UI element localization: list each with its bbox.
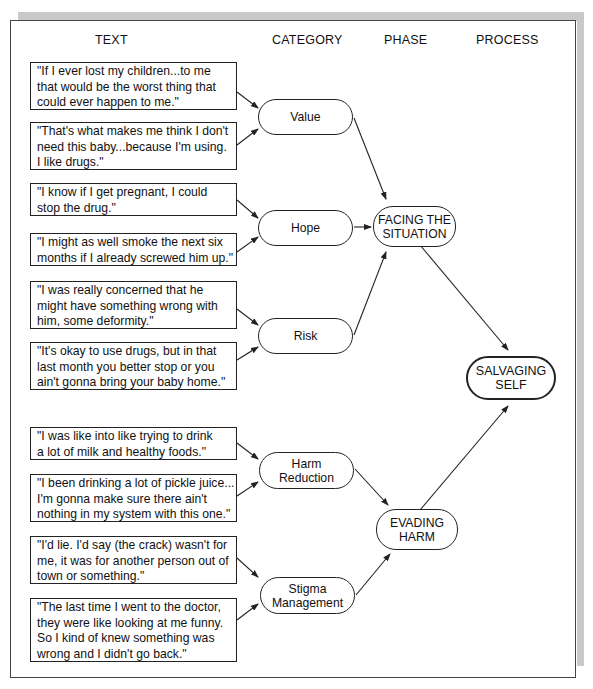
column-header-category: CATEGORY: [272, 33, 343, 47]
phase-node-evading-harm: EVADING HARM: [376, 509, 458, 550]
quote-box-5: "I was really concerned that he might ha…: [30, 281, 237, 329]
category-node-value: Value: [258, 99, 353, 135]
category-node-harm-reduction: Harm Reduction: [259, 452, 354, 489]
column-header-phase: PHASE: [384, 33, 427, 47]
category-node-stigma-management: Stigma Management: [260, 577, 355, 614]
quote-box-9: "I'd lie. I'd say (the crack) wasn't for…: [30, 536, 237, 584]
category-node-hope: Hope: [258, 210, 353, 246]
process-node-salvaging-self: SALVAGING SELF: [466, 356, 556, 400]
quote-box-8: "I been drinking a lot of pickle juice..…: [30, 474, 237, 522]
quote-box-4: "I might as well smoke the next six mont…: [30, 233, 237, 266]
phase-node-facing-the-situation: FACING THE SITUATION: [373, 206, 456, 247]
quote-box-7: "I was like into like trying to drink a …: [30, 427, 237, 460]
column-header-process: PROCESS: [476, 33, 539, 47]
quote-box-6: "It's okay to use drugs, but in that las…: [30, 342, 237, 390]
frame-shadow-right: [577, 12, 584, 666]
category-node-risk: Risk: [258, 318, 353, 354]
quote-box-1: "If I ever lost my children...to me that…: [30, 62, 237, 110]
quote-box-10: "The last time I went to the doctor, the…: [30, 598, 237, 662]
column-header-text: TEXT: [95, 33, 128, 47]
quote-box-2: "That's what makes me think I don't need…: [30, 122, 237, 170]
quote-box-3: "I know if I get pregnant, I could stop …: [30, 183, 237, 216]
